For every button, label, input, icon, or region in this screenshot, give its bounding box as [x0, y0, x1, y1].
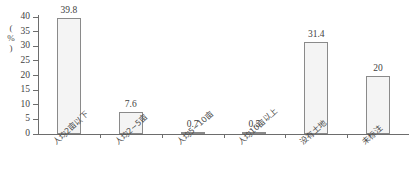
y-tick-mark: [33, 90, 38, 91]
bar-chart: (%) 4035302520151050 39.87.60.70.531.420…: [0, 0, 415, 195]
y-tick-label: 10: [8, 99, 30, 110]
x-tick-mark: [285, 134, 286, 138]
y-tick-mark: [33, 75, 38, 76]
y-tick-mark: [33, 119, 38, 120]
y-tick-label: 35: [8, 26, 30, 37]
x-tick-mark: [224, 134, 225, 138]
bar-value-label: 20: [358, 63, 398, 74]
x-category-label: 未标注: [360, 124, 384, 147]
y-tick-label: 40: [8, 11, 30, 22]
y-axis-title: (%): [2, 18, 16, 58]
x-tick-mark: [347, 134, 348, 138]
y-tick-mark: [33, 17, 38, 18]
y-tick-label: 25: [8, 55, 30, 66]
y-tick-mark: [33, 31, 38, 32]
y-axis-line: [38, 15, 39, 135]
bar-value-label: 31.4: [296, 29, 336, 40]
y-tick-mark: [33, 134, 38, 135]
bar: [304, 42, 328, 134]
x-tick-mark: [162, 134, 163, 138]
y-tick-label: 30: [8, 40, 30, 51]
y-tick-mark: [33, 46, 38, 47]
y-tick-mark: [33, 104, 38, 105]
y-tick-label: 20: [8, 70, 30, 81]
y-tick-label: 0: [8, 128, 30, 139]
x-tick-mark: [100, 134, 101, 138]
y-tick-label: 5: [8, 113, 30, 124]
y-tick-mark: [33, 60, 38, 61]
bar-value-label: 7.6: [111, 99, 151, 110]
bar-value-label: 39.8: [49, 5, 89, 16]
y-tick-label: 15: [8, 84, 30, 95]
